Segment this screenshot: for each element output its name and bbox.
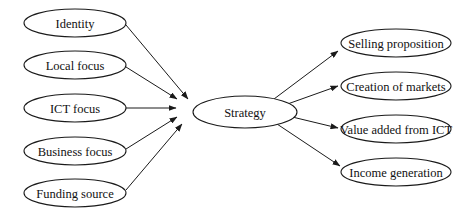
label-local-focus: Local focus xyxy=(46,59,105,73)
label-income-generation: Income generation xyxy=(349,166,443,180)
arrow-local-focus-to-strategy xyxy=(126,67,177,99)
node-business-focus: Business focus xyxy=(24,137,126,165)
label-creation-of-markets: Creation of markets xyxy=(346,80,445,94)
arrow-strategy-to-creation-of-markets xyxy=(282,86,338,106)
node-creation-of-markets: Creation of markets xyxy=(341,72,451,100)
node-selling-proposition: Selling proposition xyxy=(341,29,451,57)
node-local-focus: Local focus xyxy=(24,51,126,79)
nodes: IdentityLocal focusICT focusBusiness foc… xyxy=(24,9,452,207)
arrow-funding-source-to-strategy xyxy=(126,124,182,190)
node-funding-source: Funding source xyxy=(24,179,126,207)
label-ict-focus: ICT focus xyxy=(50,102,100,116)
label-selling-proposition: Selling proposition xyxy=(348,37,444,51)
arrow-strategy-to-income-generation xyxy=(274,122,340,166)
node-strategy: Strategy xyxy=(193,96,297,128)
node-value-added-from-ict: Value added from ICT xyxy=(340,115,452,143)
node-income-generation: Income generation xyxy=(341,158,451,186)
strategy-diagram: IdentityLocal focusICT focusBusiness foc… xyxy=(0,0,474,217)
node-ict-focus: ICT focus xyxy=(24,94,126,122)
label-strategy: Strategy xyxy=(224,106,266,120)
label-funding-source: Funding source xyxy=(36,187,114,201)
node-identity: Identity xyxy=(24,9,126,37)
label-business-focus: Business focus xyxy=(38,145,113,159)
arrow-business-focus-to-strategy xyxy=(126,117,177,149)
arrow-strategy-to-selling-proposition xyxy=(274,51,338,99)
label-value-added-from-ict: Value added from ICT xyxy=(340,123,452,137)
arrow-identity-to-strategy xyxy=(126,25,188,99)
label-identity: Identity xyxy=(56,17,96,31)
